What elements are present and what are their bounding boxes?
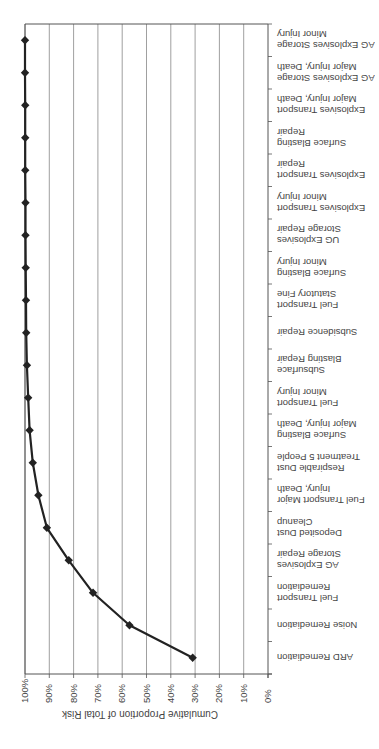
- value-tick-label: 100%: [19, 679, 30, 703]
- category-label: Fuel Transport Minor Injury: [277, 387, 377, 409]
- value-tick-label: 40%: [165, 684, 176, 703]
- value-tick-label: 10%: [238, 684, 249, 703]
- category-label: Explosives Transport Minor Injury: [277, 192, 377, 214]
- cumulative-risk-chart: ARD RemediationNoise RemediationFuel Tra…: [0, 0, 379, 749]
- category-label: Noise Remediation: [277, 620, 377, 631]
- category-label: UG Explosives Storage Repair: [277, 224, 377, 246]
- value-tick-label: 30%: [189, 684, 200, 703]
- category-label: AG Explosives Storage Minor Injury: [277, 29, 377, 51]
- category-label: Deposited Dust Cleanup: [277, 517, 377, 539]
- diamond-marker: [22, 329, 30, 337]
- diamond-marker: [21, 36, 29, 44]
- category-label: AG Explosives Storage Repair: [277, 549, 377, 571]
- category-label: Surface Blasting Minor Injury: [277, 257, 377, 279]
- value-tick-label: 0%: [262, 689, 273, 703]
- value-tick-label: 80%: [68, 684, 79, 703]
- category-label: Fuel Transport Statutory Fine: [277, 289, 377, 311]
- category-label: AG Explosives Storage Major Injury, Deat…: [277, 62, 377, 84]
- value-tick-label: 50%: [141, 684, 152, 703]
- category-label: ARD Remediation: [277, 652, 377, 663]
- value-tick-label: 60%: [116, 684, 127, 703]
- diamond-marker: [34, 491, 42, 499]
- category-label: Surface Blasting Repair: [277, 127, 377, 149]
- diamond-marker: [21, 199, 29, 207]
- category-label: Subsidence Repair: [277, 327, 377, 338]
- cumulative-risk-line: [25, 40, 193, 658]
- diamond-marker: [21, 166, 29, 174]
- value-tick-label: 20%: [213, 684, 224, 703]
- diamond-marker: [21, 69, 29, 77]
- category-label: Explosives Transport Major Injury, Death: [277, 94, 377, 116]
- value-tick-label: 70%: [92, 684, 103, 703]
- category-label: Fuel Transport Major Injury, Death: [277, 484, 377, 506]
- diamond-marker: [21, 101, 29, 109]
- gridlines: [25, 24, 244, 674]
- diamond-marker: [23, 361, 31, 369]
- diamond-marker: [29, 459, 37, 467]
- diamond-marker: [25, 426, 33, 434]
- category-label: Subsurface Blasting Repair: [277, 354, 377, 376]
- category-label: Explosives Transport Repair: [277, 159, 377, 181]
- axes: [25, 24, 272, 678]
- category-label: Fuel Transport Remediation: [277, 582, 377, 604]
- diamond-marker: [22, 296, 30, 304]
- diamond-marker: [22, 264, 30, 272]
- diamond-marker: [21, 231, 29, 239]
- category-label: Surface Blasting Major Injury, Death: [277, 419, 377, 441]
- diamond-marker: [188, 654, 196, 662]
- value-axis-title: Cumulative Proportion of Total Risk: [40, 709, 240, 720]
- category-label: Respirable Dust Treatment 5 People: [277, 452, 377, 474]
- value-tick-label: 90%: [43, 684, 54, 703]
- diamond-marker: [21, 134, 29, 142]
